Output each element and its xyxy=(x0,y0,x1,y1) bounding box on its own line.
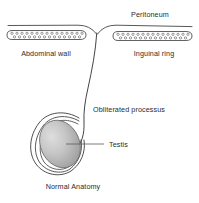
label-abdominal-wall: Abdominal wall xyxy=(21,49,71,58)
label-obliterated-processus: Obliterated processus xyxy=(93,105,165,114)
label-testis: Testis xyxy=(109,140,128,149)
inguinal-ring-structure xyxy=(113,32,192,41)
label-normal-anatomy: Normal Anatomy xyxy=(46,182,101,191)
anatomy-illustration: Peritoneum Abdominal wall Inguinal ring … xyxy=(0,0,199,203)
label-peritoneum: Peritoneum xyxy=(131,10,169,19)
abdominal-wall-structure xyxy=(7,31,86,40)
anatomy-diagram-figure: Peritoneum Abdominal wall Inguinal ring … xyxy=(0,0,199,203)
label-inguinal-ring: Inguinal ring xyxy=(134,49,174,58)
